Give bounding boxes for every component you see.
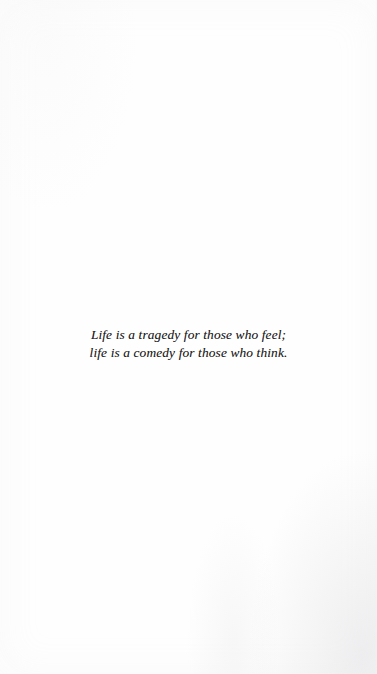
book-page: Life is a tragedy for those who feel; li… — [0, 0, 377, 674]
epigraph-quote: Life is a tragedy for those who feel; li… — [40, 326, 337, 362]
epigraph-line-1: Life is a tragedy for those who feel; — [58, 326, 319, 344]
epigraph-line-2: life is a comedy for those who think. — [58, 344, 319, 362]
